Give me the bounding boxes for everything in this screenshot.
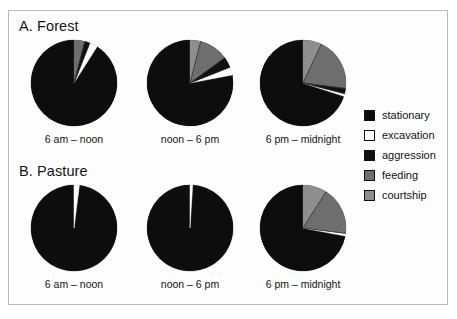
legend-item-courtship[interactable]: courtship (364, 186, 436, 205)
legend-item-aggression[interactable]: aggression (364, 146, 436, 165)
pie-chart (259, 39, 347, 127)
legend-label: stationary (382, 110, 430, 121)
legend-label: courtship (382, 190, 427, 201)
legend-swatch-excavation-icon (364, 130, 375, 141)
pie-chart (146, 39, 234, 127)
pie-chart (30, 39, 118, 127)
legend-item-feeding[interactable]: feeding (364, 166, 436, 185)
panel-title-pasture: B. Pasture (19, 163, 88, 179)
legend-swatch-aggression-icon (364, 150, 375, 161)
pie-chart (146, 184, 234, 272)
pie-caption: noon – 6 pm (161, 133, 219, 145)
legend-label: excavation (382, 130, 435, 141)
legend-item-excavation[interactable]: excavation (364, 126, 436, 145)
pie-caption: noon – 6 pm (161, 278, 219, 290)
pie-chart (30, 184, 118, 272)
pie-caption: 6 am – noon (45, 133, 103, 145)
legend-swatch-stationary-icon (364, 110, 375, 121)
panel-title-forest: A. Forest (19, 18, 79, 34)
legend-swatch-feeding-icon (364, 170, 375, 181)
pie-caption: 6 pm – midnight (266, 278, 341, 290)
pie-caption: 6 pm – midnight (266, 133, 341, 145)
pie-caption: 6 am – noon (45, 278, 103, 290)
pie-chart (259, 184, 347, 272)
legend: stationaryexcavationaggressionfeedingcou… (364, 106, 436, 206)
legend-swatch-courtship-icon (364, 190, 375, 201)
legend-label: feeding (382, 170, 418, 181)
legend-label: aggression (382, 150, 436, 161)
legend-item-stationary[interactable]: stationary (364, 106, 436, 125)
figure-root: A. Forest B. Pasture 6 am – noonnoon – 6… (0, 0, 457, 319)
